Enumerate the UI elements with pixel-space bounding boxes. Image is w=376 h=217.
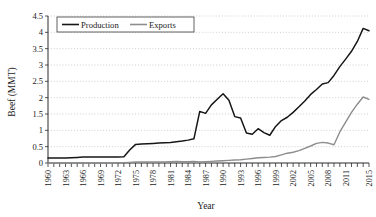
- x-tick-label-1984: 1984: [184, 170, 193, 186]
- y-tick-label-1: 1: [39, 125, 43, 135]
- y-tick-label-4: 4: [39, 27, 44, 37]
- beef-production-exports-chart: 00.511.522.533.544.5 1960196319661969197…: [0, 0, 376, 217]
- x-tick-label-1996: 1996: [254, 170, 263, 186]
- x-tick-label-1975: 1975: [132, 170, 141, 186]
- chart-canvas: 00.511.522.533.544.5 1960196319661969197…: [0, 0, 376, 217]
- x-tick-label-2015: 2015: [365, 170, 374, 186]
- legend-label-production: Production: [81, 20, 119, 30]
- axes-group: [48, 16, 369, 163]
- x-tick-label-1963: 1963: [62, 170, 71, 186]
- x-tick-label-2005: 2005: [307, 170, 316, 186]
- x-tick-label-1966: 1966: [79, 170, 88, 186]
- y-tick-label-4.5: 4.5: [32, 11, 43, 21]
- x-tick-label-1990: 1990: [219, 170, 228, 186]
- y-tick-label-2.5: 2.5: [32, 76, 43, 86]
- y-tick-label-2: 2: [39, 93, 43, 103]
- y-tick-label-1.5: 1.5: [32, 109, 43, 119]
- y-tick-label-0: 0: [39, 158, 43, 168]
- x-tick-label-2008: 2008: [324, 170, 333, 186]
- x-tick-labels-group: 1960196319661969197219751978198119841987…: [44, 170, 374, 186]
- series-line-production: [48, 28, 369, 158]
- x-axis-title: Year: [197, 201, 215, 211]
- x-tick-label-1972: 1972: [114, 170, 123, 186]
- legend-label-exports: Exports: [149, 20, 176, 30]
- x-tick-label-1999: 1999: [272, 170, 281, 186]
- x-tick-label-1969: 1969: [97, 170, 106, 186]
- chart-legend: ProductionExports: [57, 17, 194, 32]
- gridlines-group: [48, 16, 369, 147]
- y-axis-title: Beef (MMT): [7, 67, 18, 116]
- y-tick-labels-group: 00.511.522.533.544.5: [32, 11, 43, 168]
- x-tick-label-1993: 1993: [237, 170, 246, 186]
- x-tick-label-2002: 2002: [289, 170, 298, 186]
- x-tick-label-1960: 1960: [44, 170, 53, 186]
- y-tick-label-3: 3: [39, 60, 43, 70]
- x-tick-label-2011: 2011: [342, 170, 351, 186]
- y-tick-label-0.5: 0.5: [32, 142, 43, 152]
- x-tick-label-1987: 1987: [202, 170, 211, 186]
- x-tick-label-1981: 1981: [167, 170, 176, 186]
- y-tick-label-3.5: 3.5: [32, 44, 43, 54]
- x-tick-label-1978: 1978: [149, 170, 158, 186]
